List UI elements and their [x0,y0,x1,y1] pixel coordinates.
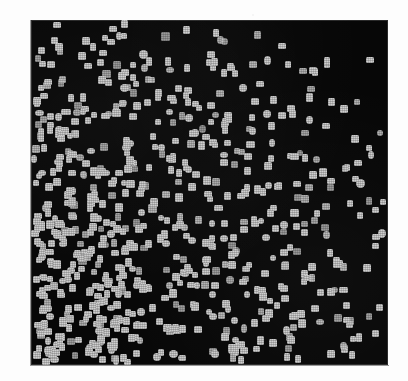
scatter-point [89,223,97,231]
scatter-point [175,85,182,92]
scatter-point [175,179,182,185]
scatter-point [105,79,112,86]
scatter-point [82,37,90,45]
scatter-point [264,56,271,65]
scatter-point [376,304,383,311]
scatter-point [80,171,86,178]
scatter-point [184,264,191,270]
scatter-point [111,319,119,325]
scatter-point [86,289,93,296]
scatter-point [256,81,264,87]
scatter-point [53,260,61,269]
scatter-point [46,305,52,312]
scatter-point [69,197,76,206]
scatter-point [109,26,117,32]
scatter-point [380,199,386,205]
scatter-point [166,282,173,289]
scatter-point [113,225,121,233]
scatter-point [249,127,256,135]
scatter-point [53,178,61,186]
scatter-point [66,187,72,196]
scatter-point [173,254,180,260]
scatter-point [222,126,228,134]
scatter-point [278,112,286,119]
scatter-point [258,308,264,315]
scatter-point [76,304,82,311]
scatter-point [119,272,127,279]
scatter-point [254,31,261,39]
scatter-point [176,169,182,177]
scatter-point [268,122,275,130]
scatter-point [263,110,271,118]
scatter-point [137,337,143,344]
scatter-point [244,291,250,298]
scatter-point [91,112,97,118]
scatter-point [77,241,84,247]
scatter-point [55,43,63,51]
scatter-point [240,219,248,225]
scatter-point [170,119,176,126]
scatter-point [159,150,165,158]
scatter-point [68,212,76,219]
scatter-point [202,268,210,275]
scatter-point [203,176,211,185]
scatter-point [224,192,231,200]
scatter-point [228,261,236,269]
scatter-point [72,352,78,359]
scatter-point [113,61,121,69]
scatter-point [136,267,142,275]
scatter-point [71,118,79,125]
scatter-point [226,115,232,123]
scatter-point [293,248,301,255]
scatter-point [141,64,148,72]
scatter-point [209,291,216,298]
scatter-point [31,155,37,163]
scatter-point [166,155,173,162]
scatter-point [232,337,239,343]
scatter-point [327,249,333,257]
scatter-point [295,355,301,363]
scatter-point [317,289,324,296]
scatter-point [126,180,135,188]
scatter-point [290,324,297,331]
scatter-point [258,287,266,293]
scatter-point [120,84,129,92]
scatter-point [36,345,42,352]
scatter-point [301,229,308,236]
scatter-point [239,84,247,92]
scatter-point [39,293,48,299]
scatter-point [111,239,117,247]
scatter-point [105,280,111,288]
scatter-point [45,249,54,255]
scatter-point [52,215,58,222]
scatter-point [118,72,126,80]
scatter-point [33,351,41,359]
scatter-point [48,240,55,247]
scatter-point [155,119,161,125]
scatter-point [133,350,140,357]
scatter-point [302,154,308,162]
scatter-point [46,221,54,229]
scatter-point [98,226,104,232]
scatter-plot-panel [31,20,388,365]
scatter-point [223,327,230,335]
scatter-point [278,43,286,49]
scatter-point [44,79,52,85]
scatter-point [56,154,64,160]
scatter-point [305,184,313,191]
scatter-point [301,130,309,136]
scatter-point [267,298,273,304]
scatter-point [150,133,156,140]
scatter-point [158,144,165,151]
scatter-point [111,250,119,256]
scatter-point [97,284,104,291]
scatter-point [280,221,288,229]
scatter-point [208,240,214,249]
scatter-point [192,171,200,178]
scatter-point [265,182,272,189]
scatter-point [212,112,219,118]
scatter-point [45,208,51,217]
scatter-point [339,287,348,293]
scatter-point [168,166,174,174]
scatter-point [163,267,170,273]
